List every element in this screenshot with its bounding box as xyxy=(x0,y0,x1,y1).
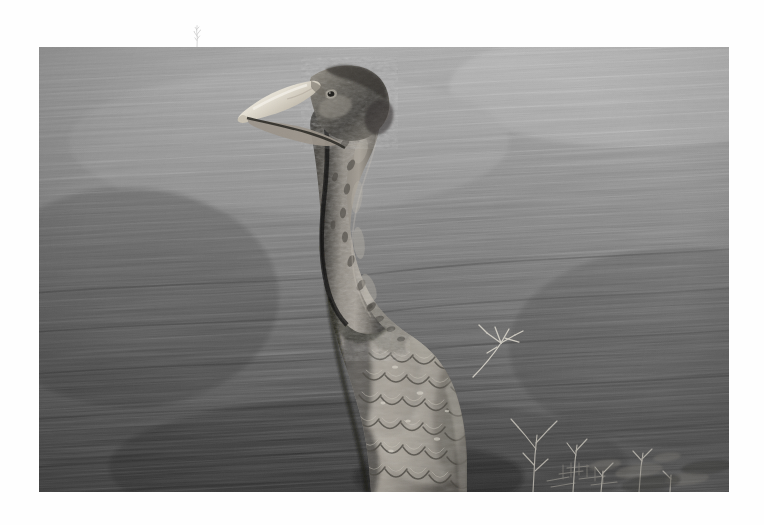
pencil-scratch-mark xyxy=(190,24,204,48)
vignette xyxy=(39,47,729,492)
photo-content xyxy=(39,47,729,492)
photograph xyxy=(39,47,729,492)
photo-page: Cormorant standing in rippled water Corm… xyxy=(0,0,764,525)
